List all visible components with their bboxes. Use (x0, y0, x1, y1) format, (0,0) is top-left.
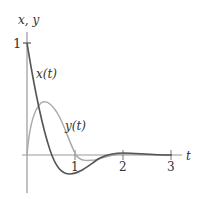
y-tick-label-1: 1 (13, 36, 21, 51)
x-tick-label-1: 1 (71, 160, 79, 174)
chart: x, y t 1 1 2 3 x(t) y(t) (0, 0, 201, 199)
x-axis-label: t (186, 149, 191, 163)
series-x-curve (27, 43, 172, 174)
x-tick-label-2: 2 (119, 160, 127, 174)
series-x-label: x(t) (36, 67, 57, 81)
x-tick-label-3: 3 (167, 160, 175, 174)
series-y-label: y(t) (64, 119, 86, 133)
y-axis-label: x, y (18, 13, 39, 27)
series-y-curve (27, 102, 172, 161)
